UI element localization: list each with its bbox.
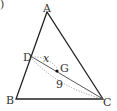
label-d: D — [23, 51, 32, 64]
triangle-diagram: ) A B C D G x 9 — [0, 0, 117, 111]
point-g — [55, 69, 58, 72]
label-g: G — [60, 62, 69, 75]
label-a: A — [42, 2, 52, 15]
label-c: C — [103, 96, 111, 109]
label-9: 9 — [56, 78, 63, 91]
label-b: B — [6, 94, 14, 107]
label-x: x — [43, 52, 50, 65]
corner-mark: ) — [0, 0, 4, 11]
